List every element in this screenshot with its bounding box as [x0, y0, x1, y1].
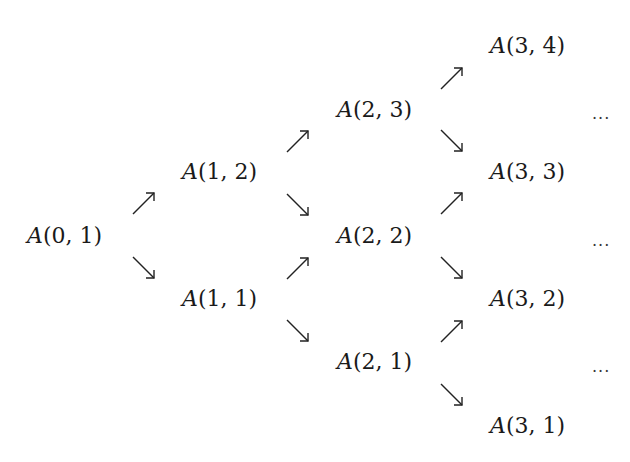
ellipsis-continuation: ... — [592, 362, 610, 372]
function-args: (3, 2) — [506, 286, 565, 311]
function-args: (3, 3) — [506, 159, 565, 184]
function-args: (3, 1) — [506, 413, 565, 438]
arrow-southeast-icon — [285, 318, 311, 344]
tree-node-n31: A(3, 1) — [490, 412, 565, 440]
arrow-southeast-icon — [285, 192, 311, 218]
function-name: A — [182, 159, 198, 184]
tree-node-n23: A(2, 3) — [337, 96, 412, 124]
function-name: A — [337, 97, 353, 122]
function-args: (1, 2) — [198, 159, 257, 184]
arrow-northeast-icon — [285, 255, 311, 281]
arrow-southeast-icon — [439, 382, 465, 408]
tree-node-n22: A(2, 2) — [337, 222, 412, 250]
arrow-northeast-icon — [439, 190, 465, 216]
arrow-northeast-icon — [439, 318, 465, 344]
arrow-northeast-icon — [131, 190, 157, 216]
function-args: (3, 4) — [506, 33, 565, 58]
ellipsis-continuation: ... — [592, 109, 610, 119]
function-args: (2, 2) — [353, 223, 412, 248]
ellipsis-continuation: ... — [592, 236, 610, 246]
function-args: (2, 3) — [353, 97, 412, 122]
function-args: (0, 1) — [43, 223, 102, 248]
arrow-southeast-icon — [131, 255, 157, 281]
tree-node-n01: A(0, 1) — [27, 222, 102, 250]
tree-node-n12: A(1, 2) — [182, 158, 257, 186]
tree-node-n32: A(3, 2) — [490, 285, 565, 313]
function-name: A — [182, 286, 198, 311]
function-args: (1, 1) — [198, 286, 257, 311]
arrow-southeast-icon — [439, 255, 465, 281]
function-name: A — [490, 413, 506, 438]
tree-node-n21: A(2, 1) — [337, 348, 412, 376]
arrow-northeast-icon — [439, 65, 465, 91]
function-name: A — [337, 349, 353, 374]
function-name: A — [27, 223, 43, 248]
arrow-southeast-icon — [439, 128, 465, 154]
arrow-northeast-icon — [285, 128, 311, 154]
tree-node-n11: A(1, 1) — [182, 285, 257, 313]
function-name: A — [490, 286, 506, 311]
function-args: (2, 1) — [353, 349, 412, 374]
tree-node-n34: A(3, 4) — [490, 32, 565, 60]
tree-node-n33: A(3, 3) — [490, 158, 565, 186]
function-name: A — [337, 223, 353, 248]
function-name: A — [490, 159, 506, 184]
function-name: A — [490, 33, 506, 58]
